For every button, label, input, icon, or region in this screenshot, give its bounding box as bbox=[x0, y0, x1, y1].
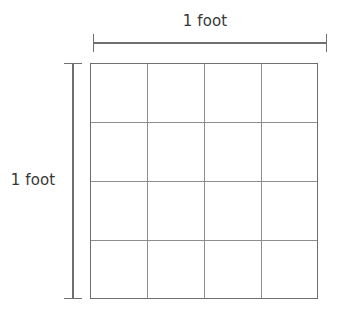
grid-cell bbox=[261, 122, 318, 181]
grid-cell bbox=[90, 63, 147, 122]
grid-cell bbox=[261, 181, 318, 240]
grid-cell bbox=[90, 181, 147, 240]
grid-cell bbox=[147, 63, 204, 122]
grid-cell bbox=[261, 240, 318, 299]
grid-cell bbox=[147, 122, 204, 181]
grid-cell bbox=[147, 240, 204, 299]
grid-cell bbox=[204, 181, 261, 240]
left-dimension-label: 1 foot bbox=[0, 173, 66, 188]
square-foot-grid bbox=[90, 63, 318, 299]
grid-cell bbox=[204, 122, 261, 181]
grid-cell bbox=[204, 63, 261, 122]
diagram-canvas bbox=[0, 0, 341, 317]
figure-root: 1 foot 1 foot bbox=[0, 0, 341, 317]
grid-cell bbox=[90, 122, 147, 181]
grid-cell bbox=[204, 240, 261, 299]
grid-cell bbox=[261, 63, 318, 122]
top-dimension-label: 1 foot bbox=[0, 14, 341, 29]
grid-cell bbox=[147, 181, 204, 240]
grid-cell bbox=[90, 240, 147, 299]
